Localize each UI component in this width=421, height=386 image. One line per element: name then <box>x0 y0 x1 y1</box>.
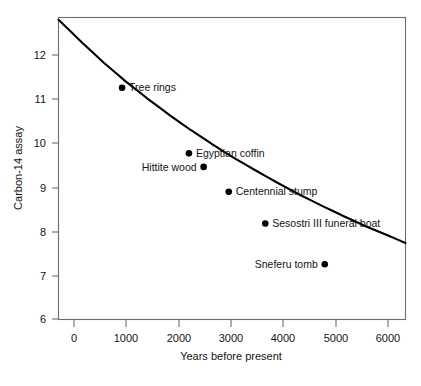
x-axis-title: Years before present <box>180 350 282 362</box>
data-point-label: Hittite wood <box>142 161 197 173</box>
data-point-label: Tree rings <box>129 81 176 93</box>
data-point-label: Sesostri III funeral boat <box>272 217 380 229</box>
data-point <box>225 189 232 196</box>
x-tick-label: 1000 <box>114 332 138 344</box>
data-point-label: Sneferu tomb <box>255 258 318 270</box>
data-point-label: Egyptian coffin <box>196 147 265 159</box>
data-point <box>119 84 126 91</box>
x-tick-label: 4000 <box>271 332 295 344</box>
y-tick-label: 12 <box>34 49 46 61</box>
y-tick-label: 10 <box>34 137 46 149</box>
y-axis-tick-labels: 12 11 10 9 8 7 6 <box>34 49 46 325</box>
y-axis-title: Carbon-14 assay <box>12 126 24 210</box>
x-tick-label: 3000 <box>219 332 243 344</box>
plot-frame <box>59 18 406 320</box>
x-axis-tick-labels: 0 1000 2000 3000 4000 5000 6000 <box>71 332 400 344</box>
data-point <box>321 261 328 268</box>
x-tick-label: 0 <box>71 332 77 344</box>
y-tick-label: 11 <box>35 93 46 105</box>
y-tick-label: 8 <box>40 226 46 238</box>
carbon-14-decay-chart: 12 11 10 9 8 7 6 0 1000 2000 3000 4000 5… <box>0 0 421 386</box>
x-tick-label: 5000 <box>324 332 348 344</box>
y-tick-label: 9 <box>40 182 46 194</box>
x-axis-ticks <box>74 320 388 328</box>
data-point <box>186 150 193 157</box>
x-tick-label: 2000 <box>167 332 191 344</box>
y-tick-label: 6 <box>40 313 46 325</box>
data-point <box>262 220 269 227</box>
data-point <box>200 164 207 171</box>
y-tick-label: 7 <box>40 270 46 282</box>
y-axis-ticks <box>52 55 59 319</box>
x-tick-label: 6000 <box>376 332 400 344</box>
chart-figure: 12 11 10 9 8 7 6 0 1000 2000 3000 4000 5… <box>0 0 421 386</box>
data-point-label: Centennial stump <box>236 185 318 197</box>
